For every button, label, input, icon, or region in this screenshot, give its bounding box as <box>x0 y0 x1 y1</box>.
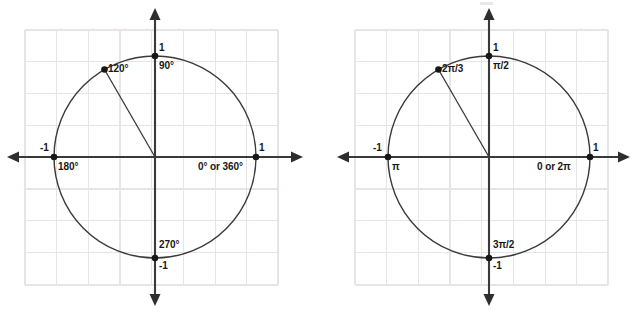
arrow-left-icon <box>337 152 349 163</box>
point-pi <box>385 154 392 161</box>
point-pi-2 <box>486 53 493 60</box>
label-bottom-value: -1 <box>159 261 168 271</box>
point-0-2pi <box>587 154 594 161</box>
label-bottom-value: -1 <box>493 261 502 271</box>
label-pi-over-2: π/2 <box>493 61 509 71</box>
scan-artifact <box>480 2 493 5</box>
degrees-unit-circle-panel: 1 90° 120° -1 180° 1 0° or 360° -1 270° <box>0 0 315 314</box>
point-90 <box>152 53 159 60</box>
label-2pi-over-3: 2π/3 <box>442 64 463 74</box>
arrow-right-icon <box>618 152 630 163</box>
point-270 <box>152 255 159 262</box>
arrow-down-icon <box>484 294 495 306</box>
point-120 <box>101 66 108 73</box>
label-right-value: 1 <box>259 143 264 153</box>
label-left-value: -1 <box>373 143 382 153</box>
label-90-degrees: 90° <box>159 61 174 71</box>
label-0-or-360-degrees: 0° or 360° <box>198 162 243 172</box>
arrow-up-icon <box>484 8 495 20</box>
label-120-degrees: 120° <box>108 64 128 74</box>
label-0-or-2pi: 0 or 2π <box>537 162 571 172</box>
point-0-360 <box>253 154 260 161</box>
degrees-circle-graphic <box>0 0 315 314</box>
label-pi: π <box>392 162 400 172</box>
radians-unit-circle-panel: 1 π/2 2π/3 -1 π 1 0 or 2π -1 3π/2 <box>315 0 630 314</box>
unit-circle-figure: 1 90° 120° -1 180° 1 0° or 360° -1 270° <box>0 0 630 314</box>
point-2pi-3 <box>435 66 442 73</box>
arrow-left-icon <box>7 152 19 163</box>
label-left-value: -1 <box>40 143 49 153</box>
label-right-value: 1 <box>593 143 598 153</box>
label-270-degrees: 270° <box>159 240 179 250</box>
label-top-value: 1 <box>493 43 498 53</box>
label-180-degrees: 180° <box>58 162 78 172</box>
terminal-ray-120 <box>105 70 156 158</box>
point-3pi-2 <box>486 255 493 262</box>
arrow-down-icon <box>150 294 161 306</box>
arrow-right-icon <box>291 152 303 163</box>
arrow-up-icon <box>150 8 161 20</box>
label-top-value: 1 <box>159 43 164 53</box>
radians-circle-graphic <box>315 0 630 314</box>
point-180 <box>51 154 58 161</box>
label-3pi-over-2: 3π/2 <box>493 240 514 250</box>
